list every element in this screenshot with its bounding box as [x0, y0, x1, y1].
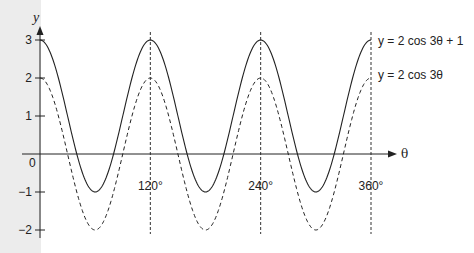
axes	[22, 26, 397, 238]
x-tick-label: 120°	[138, 179, 163, 193]
y-axis-arrow-icon	[37, 26, 44, 35]
x-tick-labels: 120°240°360°	[138, 179, 384, 193]
y-ticks: 321−1−2	[18, 33, 45, 237]
y-axis-label: y	[31, 10, 40, 25]
trig-graph: 321−1−2 120°240°360° y θ 0 y = 2 cos 3θ …	[0, 0, 474, 253]
y-tick-label: 1	[25, 109, 32, 123]
y-tick-label: −2	[18, 223, 32, 237]
y-tick-label: 2	[25, 71, 32, 85]
curve-2cos3theta-plus-1	[40, 40, 371, 192]
x-axis-arrow-icon	[388, 151, 397, 158]
legend-solid: y = 2 cos 3θ + 1	[378, 34, 464, 48]
origin-label: 0	[29, 156, 36, 170]
x-axis-label: θ	[401, 147, 408, 161]
x-tick-label: 360°	[359, 179, 384, 193]
y-tick-label: 3	[25, 33, 32, 47]
legend-dashed: y = 2 cos 3θ	[378, 68, 443, 82]
x-tick-label: 240°	[248, 179, 273, 193]
vertical-reference-lines	[150, 32, 371, 234]
y-tick-label: −1	[18, 185, 32, 199]
